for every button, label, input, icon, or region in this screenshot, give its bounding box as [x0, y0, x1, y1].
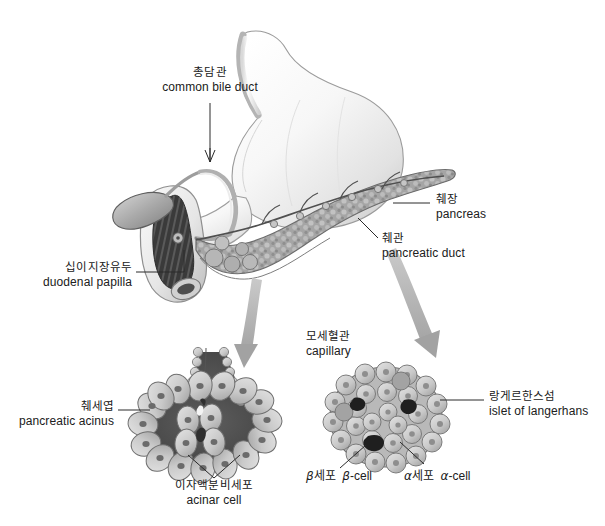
- label-alpha-cell: α세포 α-cell: [404, 466, 471, 485]
- label-pancreas-ko: 췌장: [436, 193, 486, 207]
- label-duodenal-papilla: 십이지장유두 duodenal papilla: [0, 261, 132, 289]
- label-common-bile-duct-en: common bile duct: [140, 80, 280, 94]
- label-islet-of-langerhans-en: islet of langerhans: [489, 404, 588, 418]
- arrow-to-acinus-head: [234, 344, 258, 368]
- label-pancreatic-acinus-ko: 췌세엽: [0, 400, 114, 414]
- arrow-to-islet-shaft: [386, 248, 434, 344]
- label-islet-of-langerhans-ko: 랑게르한스섬: [489, 390, 588, 404]
- label-beta-cell: β세포 β-cell: [306, 466, 372, 485]
- label-acinar-cell: 이자액분비세포 acinar cell: [152, 479, 276, 507]
- label-alpha-cell-text: α세포 α-cell: [404, 469, 471, 483]
- label-pancreas: 췌장 pancreas: [436, 193, 486, 221]
- label-pancreatic-acinus: 췌세엽 pancreatic acinus: [0, 400, 114, 428]
- label-common-bile-duct-ko: 총담관: [140, 66, 280, 80]
- stomach-illustration: [169, 31, 404, 253]
- leader-common-bile-duct-tip: [205, 148, 215, 162]
- label-common-bile-duct: 총담관 common bile duct: [140, 66, 280, 94]
- alpha-symbol-ko: α: [404, 469, 412, 483]
- papilla-opening: [176, 236, 180, 240]
- label-alpha-cell-ko: 세포: [412, 469, 434, 483]
- label-capillary: 모세혈관 capillary: [306, 330, 351, 358]
- label-islet-of-langerhans: 랑게르한스섬 islet of langerhans: [489, 390, 588, 418]
- label-beta-cell-ko: 세포: [314, 469, 336, 483]
- label-duodenal-papilla-en: duodenal papilla: [0, 275, 132, 289]
- label-pancreas-en: pancreas: [436, 207, 486, 221]
- label-duodenal-papilla-ko: 십이지장유두: [0, 261, 132, 275]
- label-alpha-cell-en: -cell: [449, 469, 471, 483]
- label-beta-cell-text: β세포 β-cell: [306, 469, 372, 483]
- pancreatic-acinus-inset: [126, 347, 284, 485]
- beta-symbol-en: β: [342, 469, 350, 483]
- alpha-symbol-en: α: [441, 469, 449, 483]
- illustration-canvas: 총담관 common bile duct 췌장 pancreas 췌관 panc…: [0, 0, 605, 526]
- beta-symbol-ko: β: [306, 469, 314, 483]
- label-capillary-ko: 모세혈관: [306, 330, 351, 344]
- label-pancreatic-acinus-en: pancreatic acinus: [0, 414, 114, 428]
- label-capillary-en: capillary: [306, 344, 351, 358]
- leader-pancreatic-duct: [358, 218, 378, 238]
- islet-of-langerhans-inset: [323, 362, 450, 473]
- label-acinar-cell-en: acinar cell: [152, 493, 276, 507]
- label-pancreatic-duct-en: pancreatic duct: [382, 246, 465, 260]
- label-acinar-cell-ko: 이자액분비세포: [152, 479, 276, 493]
- arrow-to-acinus-shaft: [240, 278, 262, 350]
- label-beta-cell-en: -cell: [350, 469, 372, 483]
- label-pancreatic-duct-ko: 췌관: [382, 232, 465, 246]
- label-pancreatic-duct: 췌관 pancreatic duct: [382, 232, 465, 260]
